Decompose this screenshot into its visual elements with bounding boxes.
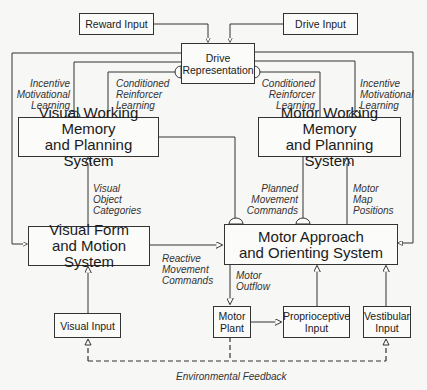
motor-working-memory-box: Motor Working Memory and Planning System [258, 117, 401, 157]
visual-form-motion-box: Visual Form and Motion System [28, 226, 150, 266]
vestibular-input-box: Vestibular Input [363, 306, 411, 338]
visual-working-memory-label: Visual Working Memory and Planning Syste… [19, 105, 158, 169]
reward-to-drive-arrow [153, 24, 208, 42]
visual-object-categories-label: Visual Object Categories [93, 183, 153, 216]
motor-plant-label: Motor Plant [219, 310, 246, 334]
motor-outflow-label: Motor Outflow [236, 270, 286, 292]
motor-plant-box: Motor Plant [213, 306, 251, 338]
conditioned-reinforcer-learning-left-label: Conditioned Reinforcer Learning [116, 78, 186, 111]
environmental-feedback-label: Environmental Feedback [176, 371, 326, 382]
visual-form-motion-label: Visual Form and Motion System [29, 222, 149, 270]
motor-working-memory-label: Motor Working Memory and Planning System [259, 105, 400, 169]
incentive-motivational-learning-right-label: Incentive Motivational Learning [360, 78, 427, 111]
drive-representation-box: Drive Representation [181, 43, 255, 84]
drive-input-box: Drive Input [283, 13, 358, 35]
visual-wm-to-motor-approach-line [158, 137, 235, 218]
proprioceptive-input-label: Proprioceptive Input [283, 310, 350, 334]
visual-working-memory-box: Visual Working Memory and Planning Syste… [18, 117, 159, 157]
drive-input-to-drive-arrow [230, 24, 283, 42]
conditioned-reinforcer-learning-right-label: Conditioned Reinforcer Learning [247, 78, 315, 111]
reward-input-box: Reward Input [79, 13, 154, 35]
incentive-motivational-learning-left-label: Incentive Motivational Learning [10, 78, 70, 111]
reactive-movement-commands-label: Reactive Movement Commands [162, 253, 224, 286]
vestibular-input-label: Vestibular Input [364, 310, 410, 334]
planned-movement-commands-label: Planned Movement Commands [236, 183, 298, 216]
motor-map-positions-label: Motor Map Positions [353, 183, 403, 216]
drive-input-label: Drive Input [295, 18, 346, 30]
drive-representation-label: Drive Representation [182, 52, 253, 76]
motor-approach-orienting-box: Motor Approach and Orienting System [224, 224, 398, 265]
proprioceptive-input-box: Proprioceptive Input [283, 306, 350, 338]
visual-input-label: Visual Input [60, 320, 115, 332]
visual-input-box: Visual Input [54, 313, 121, 338]
motor-approach-orienting-label: Motor Approach and Orienting System [239, 229, 383, 261]
environmental-feedback-line [88, 337, 386, 361]
reward-input-label: Reward Input [85, 18, 147, 30]
